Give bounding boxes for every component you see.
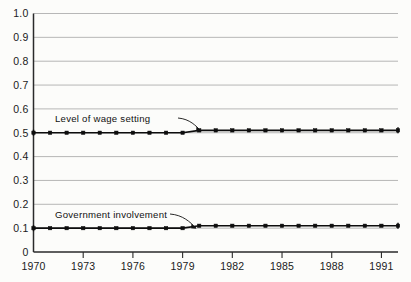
ytick-labels-group: 1.00.90.80.70.60.50.40.30.20.10	[13, 7, 28, 257]
series-marker	[98, 226, 101, 229]
series-marker	[247, 129, 250, 132]
series-marker	[197, 224, 200, 227]
xtick-label-1982: 1982	[220, 260, 244, 272]
series-marker	[181, 226, 184, 229]
chart-figure: 1.00.90.80.70.60.50.40.30.20.10 19701973…	[0, 0, 411, 282]
annotations-group: Level of wage settingGovernment involvem…	[55, 113, 202, 229]
series-level-of-wage-setting	[32, 127, 400, 135]
series-marker	[396, 224, 399, 227]
series-marker	[330, 224, 333, 227]
series-marker	[115, 226, 118, 229]
ytick-label-0.6: 0.6	[13, 103, 28, 115]
series-marker	[280, 129, 283, 132]
series-marker	[32, 131, 35, 134]
series-marker	[380, 129, 383, 132]
series-marker	[264, 129, 267, 132]
annotation-label-government-involvement: Government involvement	[55, 209, 167, 220]
ytick-label-0.8: 0.8	[13, 55, 28, 67]
xtick-label-1979: 1979	[171, 260, 195, 272]
series-marker	[280, 224, 283, 227]
series-marker	[131, 131, 134, 134]
series-marker	[131, 226, 134, 229]
series-marker	[148, 131, 151, 134]
series-marker	[181, 131, 184, 134]
ytick-label-0.9: 0.9	[13, 31, 28, 43]
series-marker	[48, 226, 51, 229]
series-marker	[363, 129, 366, 132]
series-marker	[48, 131, 51, 134]
series-marker	[231, 224, 234, 227]
series-marker	[396, 129, 399, 132]
xtick-label-1988: 1988	[320, 260, 344, 272]
ytick-label-0.3: 0.3	[13, 174, 28, 186]
series-marker	[264, 224, 267, 227]
series-marker	[214, 129, 217, 132]
xtick-label-1973: 1973	[71, 260, 95, 272]
ytick-label-0.7: 0.7	[13, 79, 28, 91]
series-marker	[148, 226, 151, 229]
xtick-label-1970: 1970	[21, 260, 45, 272]
series-marker	[247, 224, 250, 227]
series-marker	[313, 224, 316, 227]
annotation-label-level-of-wage-setting: Level of wage setting	[55, 113, 150, 124]
series-marker	[363, 224, 366, 227]
series-government-involvement	[32, 223, 400, 231]
xtick-labels-group: 19701973197619791982198519881991	[21, 260, 393, 272]
xtick-label-1976: 1976	[121, 260, 145, 272]
ytick-label-0: 0	[22, 246, 28, 258]
ytick-label-0.5: 0.5	[13, 127, 28, 139]
series-marker	[82, 226, 85, 229]
series-marker	[65, 226, 68, 229]
series-marker	[214, 224, 217, 227]
series-marker	[330, 129, 333, 132]
xtick-label-1985: 1985	[270, 260, 294, 272]
series-marker	[231, 129, 234, 132]
chart-plot-area: 1.00.90.80.70.60.50.40.30.20.10 19701973…	[0, 0, 411, 282]
series-marker	[164, 226, 167, 229]
series-marker	[347, 224, 350, 227]
ytick-label-0.4: 0.4	[13, 150, 28, 162]
series-marker	[32, 226, 35, 229]
xtick-label-1991: 1991	[369, 260, 393, 272]
ytick-label-0.2: 0.2	[13, 198, 28, 210]
annotation-government-involvement: Government involvement	[55, 209, 197, 229]
xtick-marks-group	[83, 252, 381, 258]
ytick-label-1.0: 1.0	[13, 7, 28, 19]
series-marker	[65, 131, 68, 134]
series-marker	[313, 129, 316, 132]
series-marker	[347, 129, 350, 132]
series-marker	[115, 131, 118, 134]
series-marker	[380, 224, 383, 227]
series-marker	[164, 131, 167, 134]
series-marker	[98, 131, 101, 134]
series-marker	[297, 224, 300, 227]
series-marker	[82, 131, 85, 134]
ytick-label-0.1: 0.1	[13, 222, 28, 234]
series-marker	[297, 129, 300, 132]
annotation-level-of-wage-setting: Level of wage setting	[55, 113, 202, 132]
